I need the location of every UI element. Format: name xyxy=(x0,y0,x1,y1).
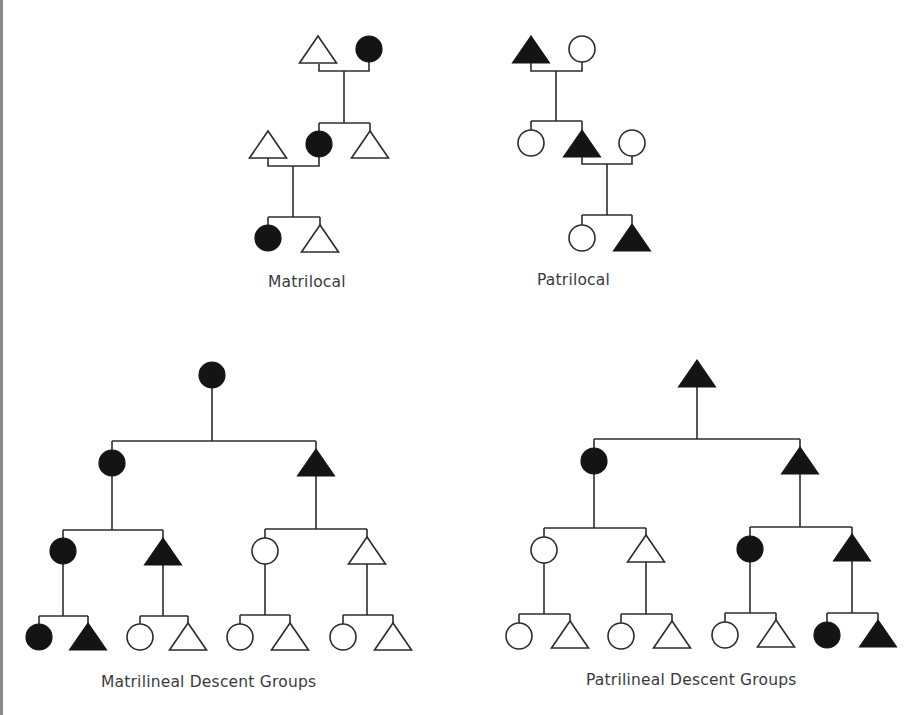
filled-male-triangle-icon xyxy=(679,360,716,387)
open-male-triangle-icon xyxy=(272,623,309,650)
filled-male-triangle-icon xyxy=(298,449,335,476)
open-female-circle-icon xyxy=(330,624,356,650)
open-female-circle-icon xyxy=(518,130,544,156)
patrilineal-label: Patrilineal Descent Groups xyxy=(586,671,797,689)
filled-female-circle-icon xyxy=(356,36,382,62)
open-male-triangle-icon xyxy=(349,537,386,564)
filled-male-triangle-icon xyxy=(145,538,182,565)
open-female-circle-icon xyxy=(252,538,278,564)
open-female-circle-icon xyxy=(569,36,595,62)
filled-female-circle-icon xyxy=(581,448,607,474)
matrilocal-panel: Matrilocal xyxy=(250,36,389,291)
filled-female-circle-icon xyxy=(737,536,763,562)
open-female-circle-icon xyxy=(127,624,153,650)
matrilocal-label: Matrilocal xyxy=(268,273,346,291)
filled-female-circle-icon xyxy=(199,362,225,388)
open-male-triangle-icon xyxy=(375,623,412,650)
matrilineal-panel: Matrilineal Descent Groups xyxy=(26,362,412,691)
filled-male-triangle-icon xyxy=(70,623,107,650)
open-female-circle-icon xyxy=(506,623,532,649)
matrilineal-kin-nodes xyxy=(26,362,412,650)
open-male-triangle-icon xyxy=(654,621,691,648)
open-male-triangle-icon xyxy=(758,620,795,647)
patrilocal-label: Patrilocal xyxy=(537,271,610,289)
matrilineal-label: Matrilineal Descent Groups xyxy=(101,673,316,691)
filled-male-triangle-icon xyxy=(834,534,871,561)
filled-female-circle-icon xyxy=(26,624,52,650)
matrilineal-kinship-lines xyxy=(39,388,393,624)
open-male-triangle-icon xyxy=(170,623,207,650)
kinship-diagram: Matrilocal Patrilocal Matrilineal Descen… xyxy=(0,0,910,715)
open-female-circle-icon xyxy=(569,225,595,251)
open-male-triangle-icon xyxy=(302,225,339,252)
filled-female-circle-icon xyxy=(814,622,840,648)
open-male-triangle-icon xyxy=(250,131,287,158)
open-female-circle-icon xyxy=(608,623,634,649)
filled-male-triangle-icon xyxy=(782,447,819,474)
open-female-circle-icon xyxy=(712,622,738,648)
patrilocal-panel: Patrilocal xyxy=(513,36,651,289)
open-male-triangle-icon xyxy=(352,131,389,158)
patrilineal-kin-nodes xyxy=(506,360,897,649)
filled-male-triangle-icon xyxy=(860,620,897,647)
filled-female-circle-icon xyxy=(99,450,125,476)
open-female-circle-icon xyxy=(619,130,645,156)
filled-male-triangle-icon xyxy=(513,36,550,63)
open-male-triangle-icon xyxy=(552,621,589,648)
patrilineal-kinship-lines xyxy=(519,387,878,623)
filled-male-triangle-icon xyxy=(614,224,651,251)
filled-female-circle-icon xyxy=(50,538,76,564)
open-female-circle-icon xyxy=(227,624,253,650)
filled-female-circle-icon xyxy=(255,225,281,251)
filled-female-circle-icon xyxy=(306,131,332,157)
open-male-triangle-icon xyxy=(300,36,337,63)
open-female-circle-icon xyxy=(531,537,557,563)
open-male-triangle-icon xyxy=(628,535,665,562)
patrilineal-panel: Patrilineal Descent Groups xyxy=(506,360,897,689)
filled-male-triangle-icon xyxy=(564,130,601,157)
